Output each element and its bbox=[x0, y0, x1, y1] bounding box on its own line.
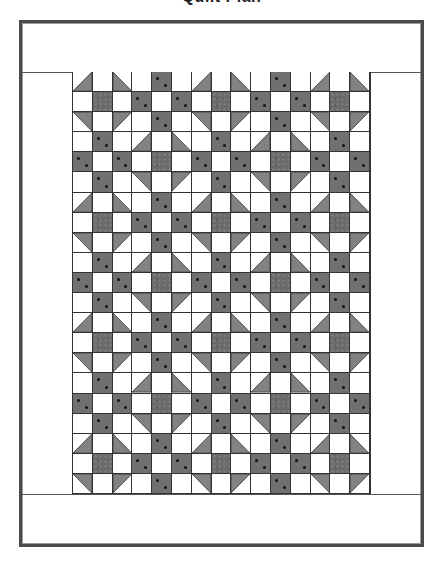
quilt-patch bbox=[231, 353, 251, 373]
half-square-triangle bbox=[192, 233, 211, 252]
quilt-patch bbox=[172, 112, 192, 132]
quilt-patch bbox=[93, 172, 113, 192]
quilt-patch bbox=[271, 132, 291, 152]
quilt-patch bbox=[291, 193, 311, 213]
quilt-patch bbox=[172, 152, 192, 172]
quilt-patch bbox=[350, 454, 370, 474]
quilt-patch bbox=[152, 434, 172, 454]
quilt-patch bbox=[251, 152, 271, 172]
quilt-patch bbox=[271, 373, 291, 393]
half-square-triangle bbox=[132, 172, 151, 191]
quilt-patch bbox=[113, 333, 133, 353]
quilt-patch bbox=[132, 72, 152, 92]
quilt-patch bbox=[251, 92, 271, 112]
quilt-patch bbox=[350, 333, 370, 353]
quilt-patch bbox=[311, 474, 331, 494]
half-square-triangle bbox=[311, 112, 330, 131]
half-square-triangle bbox=[311, 193, 330, 212]
bottom-border-seam bbox=[22, 494, 421, 495]
half-square-triangle bbox=[172, 172, 191, 191]
quilt-patch bbox=[132, 92, 152, 112]
quilt-patch bbox=[350, 72, 370, 92]
half-square-triangle bbox=[311, 353, 330, 372]
quilt-patch bbox=[73, 313, 93, 333]
quilt-patch bbox=[93, 233, 113, 253]
quilt-patch bbox=[132, 333, 152, 353]
quilt-patch bbox=[212, 293, 232, 313]
quilt-patch bbox=[271, 454, 291, 474]
quilt-patch bbox=[311, 273, 331, 293]
half-square-triangle bbox=[113, 233, 132, 252]
quilt-patch bbox=[311, 72, 331, 92]
quilt-patch bbox=[192, 394, 212, 414]
quilt-patch bbox=[93, 414, 113, 434]
quilt-patch bbox=[271, 233, 291, 253]
quilt-patch bbox=[291, 253, 311, 273]
quilt-patch bbox=[330, 72, 350, 92]
quilt-patch bbox=[73, 434, 93, 454]
quilt-patch bbox=[212, 394, 232, 414]
half-square-triangle bbox=[172, 414, 191, 433]
quilt-patch bbox=[73, 373, 93, 393]
quilt-patch bbox=[73, 132, 93, 152]
quilt-patch bbox=[172, 132, 192, 152]
quilt-patch bbox=[231, 454, 251, 474]
half-square-triangle bbox=[113, 112, 132, 131]
quilt-patch bbox=[251, 253, 271, 273]
quilt-patch bbox=[291, 132, 311, 152]
quilt-patch bbox=[73, 152, 93, 172]
quilt-patch bbox=[271, 474, 291, 494]
quilt-patch bbox=[330, 333, 350, 353]
quilt-patch bbox=[73, 253, 93, 273]
quilt-patch bbox=[311, 454, 331, 474]
quilt-patch bbox=[212, 353, 232, 373]
quilt-patch bbox=[192, 333, 212, 353]
quilt-patch bbox=[271, 193, 291, 213]
quilt-patch bbox=[152, 353, 172, 373]
quilt-patch bbox=[251, 233, 271, 253]
quilt-patch bbox=[172, 474, 192, 494]
half-square-triangle bbox=[132, 414, 151, 433]
half-square-triangle bbox=[291, 253, 310, 272]
quilt-patch bbox=[212, 434, 232, 454]
quilt-patch bbox=[192, 353, 212, 373]
half-square-triangle bbox=[73, 474, 92, 493]
quilt-patch bbox=[231, 313, 251, 333]
half-square-triangle bbox=[132, 253, 151, 272]
quilt-patch bbox=[172, 313, 192, 333]
quilt-patch bbox=[291, 454, 311, 474]
quilt-patch bbox=[152, 233, 172, 253]
quilt-patch bbox=[93, 152, 113, 172]
quilt-patch bbox=[132, 373, 152, 393]
quilt-patch bbox=[172, 373, 192, 393]
quilt-patch bbox=[132, 474, 152, 494]
quilt-patch bbox=[291, 92, 311, 112]
quilt-patch bbox=[271, 434, 291, 454]
half-square-triangle bbox=[231, 193, 250, 212]
quilt-patch bbox=[271, 253, 291, 273]
quilt-patch bbox=[172, 333, 192, 353]
quilt-patch bbox=[231, 92, 251, 112]
quilt-patch bbox=[93, 213, 113, 233]
half-square-triangle bbox=[192, 72, 211, 91]
half-square-triangle bbox=[192, 353, 211, 372]
half-square-triangle bbox=[73, 112, 92, 131]
quilt-patch bbox=[152, 213, 172, 233]
half-square-triangle bbox=[73, 72, 92, 91]
quilt-patch bbox=[271, 172, 291, 192]
quilt-patch bbox=[271, 333, 291, 353]
quilt-patch bbox=[251, 414, 271, 434]
quilt-patch bbox=[330, 434, 350, 454]
quilt-patch bbox=[152, 273, 172, 293]
quilt-patch bbox=[311, 92, 331, 112]
quilt-patch bbox=[152, 414, 172, 434]
half-square-triangle bbox=[251, 253, 270, 272]
quilt-patch bbox=[192, 454, 212, 474]
quilt-patch bbox=[231, 152, 251, 172]
quilt-patch bbox=[152, 92, 172, 112]
half-square-triangle bbox=[73, 313, 92, 332]
half-square-triangle bbox=[132, 373, 151, 392]
quilt-patch bbox=[113, 132, 133, 152]
quilt-patch bbox=[73, 293, 93, 313]
quilt-patch bbox=[113, 233, 133, 253]
